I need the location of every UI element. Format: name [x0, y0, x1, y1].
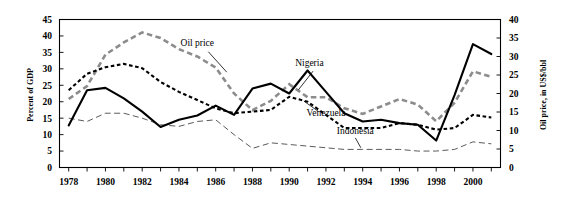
y-tick-label: 5 — [47, 146, 52, 156]
x-tick-label: 1994 — [353, 177, 372, 187]
right-axis-title: Oil price, in US$/bbl — [539, 59, 548, 130]
x-tick-label: 1984 — [169, 177, 188, 187]
annotation-label-indonesia: Indonesia — [337, 126, 375, 136]
annotation-label-oil-price: Oil price — [181, 38, 215, 48]
y-tick-label: 10 — [43, 130, 53, 140]
y-tick-label: 25 — [43, 81, 53, 91]
y2-tick-label: 10 — [509, 126, 519, 136]
y-tick-label: 30 — [43, 64, 53, 74]
y2-tick-label: 0 — [509, 163, 514, 173]
y2-tick-label: 40 — [509, 15, 519, 25]
x-tick-label: 1982 — [133, 177, 152, 187]
x-tick-label: 1996 — [390, 177, 409, 187]
left-axis-title: Percent of GDP — [26, 68, 35, 122]
oil-price-gdp-line-chart: Percent of GDP Oil price, in US$/bbl 051… — [0, 0, 573, 212]
y2-tick-label: 15 — [509, 107, 519, 117]
annotation-label-nigeria: Nigeria — [295, 58, 324, 68]
chart-figure: Percent of GDP Oil price, in US$/bbl 051… — [0, 0, 573, 212]
x-tick-label: 1990 — [280, 177, 299, 187]
y2-tick-label: 25 — [509, 70, 519, 80]
y-tick-label: 20 — [43, 97, 53, 107]
y-tick-label: 15 — [43, 114, 53, 124]
y2-tick-label: 5 — [509, 144, 514, 154]
x-tick-label: 2000 — [463, 177, 482, 187]
y2-tick-label: 20 — [509, 89, 519, 99]
y-tick-label: 40 — [43, 31, 53, 41]
x-tick-label: 1978 — [59, 177, 78, 187]
y-tick-label: 35 — [43, 48, 53, 58]
x-tick-label: 1988 — [243, 177, 262, 187]
x-tick-label: 1992 — [316, 177, 335, 187]
x-tick-label: 1986 — [206, 177, 225, 187]
y2-tick-label: 35 — [509, 33, 519, 43]
y-tick-label: 0 — [47, 163, 52, 173]
x-tick-label: 1980 — [96, 177, 115, 187]
x-tick-label: 1998 — [427, 177, 446, 187]
y2-tick-label: 30 — [509, 52, 519, 62]
y-tick-label: 45 — [43, 15, 53, 25]
annotation-label-venezuela: Venezuela — [306, 108, 346, 118]
